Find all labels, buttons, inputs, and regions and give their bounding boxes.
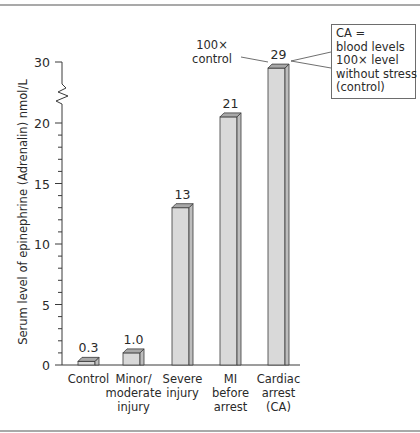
y-tick-label: 15 [34,177,50,192]
category-label: injury [166,386,199,400]
category-label: (CA) [266,400,291,414]
y-tick-label: 0 [42,358,50,373]
bar [220,113,241,365]
category-label: before [212,386,249,400]
annotation-100x: 100× [196,38,228,52]
bars [78,64,289,365]
category-labels: ControlMinor/moderateinjurySevereinjuryM… [68,372,301,414]
bar-value-label: 21 [223,96,239,111]
y-tick-label: 20 [34,116,50,131]
callout-line: without stress [336,68,412,82]
y-axis-label: Serum level of epinephrine (Adrenalin) n… [16,79,30,345]
bar [123,349,144,365]
category-label: arrest [214,400,248,414]
y-ticks [55,62,62,365]
bar [78,357,99,365]
y-tick-label: 30 [34,55,50,70]
y-tick-label: 10 [34,237,50,252]
annotation-control: control [192,52,232,66]
category-label: Cardiac [257,372,300,386]
category-label: Minor/ [115,372,151,386]
category-label: MI [224,372,237,386]
y-tick-labels: 0510152030 [34,55,50,373]
callout-leader [291,52,331,68]
callout-line: blood levels [336,41,412,55]
callout-line: (control) [336,81,412,95]
category-label: Severe [163,372,203,386]
category-label: Control [68,372,110,386]
axis-break-zigzag [56,62,68,365]
callout-line: 100× level [336,54,412,68]
bar-value-label: 0.3 [79,340,99,355]
bar-value-label: 1.0 [124,332,144,347]
category-label: arrest [262,386,296,400]
category-label: moderate [106,386,162,400]
callout-line: CA = [336,27,412,41]
category-label: injury [117,400,150,414]
bar [172,204,193,365]
bar [268,64,289,365]
callout-box: CA = blood levels 100× level without str… [331,24,416,99]
annotation-leader-left [241,57,268,62]
bar-value-label: 13 [175,187,191,202]
bar-value-label: 29 [271,47,287,62]
y-tick-label: 5 [42,298,50,313]
